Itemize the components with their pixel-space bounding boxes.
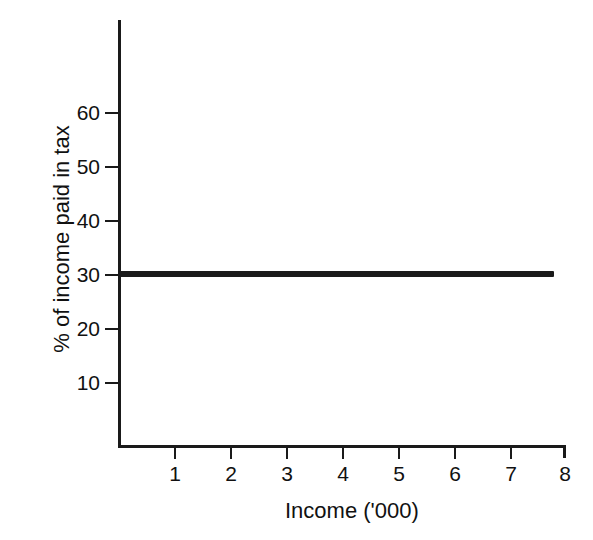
y-tick-mark-10 [105, 382, 119, 384]
x-tick-mark-4 [342, 446, 344, 459]
x-tick-label-2: 2 [211, 462, 251, 485]
y-tick-label-20-wrap: 20 [52, 318, 100, 339]
x-tick-label-3: 3 [267, 462, 307, 485]
data-series-proportional-tax-rate [119, 271, 554, 277]
y-tick-label-10: 10 [56, 372, 100, 393]
y-tick-mark-40 [105, 220, 119, 222]
x-tick-mark-5 [398, 446, 400, 459]
line-chart: % of income paid in tax 60 50 40 30 20 1… [0, 0, 593, 540]
y-tick-label-10-wrap: 10 [52, 372, 100, 393]
x-axis-title: Income ('000) [0, 498, 593, 524]
y-tick-label-50: 50 [56, 156, 100, 177]
y-tick-label-30-wrap: 30 [52, 264, 100, 285]
x-axis-end-cap [563, 445, 566, 458]
x-tick-mark-3 [286, 446, 288, 459]
y-tick-label-60-wrap: 60 [52, 102, 100, 123]
y-axis-title: % of income paid in tax [49, 89, 75, 389]
plot-area [120, 20, 566, 446]
y-tick-mark-60 [105, 112, 119, 114]
x-tick-label-5: 5 [379, 462, 419, 485]
y-tick-label-40-wrap: 40 [52, 210, 100, 231]
x-tick-label-6: 6 [435, 462, 475, 485]
y-tick-mark-20 [105, 328, 119, 330]
y-tick-label-40: 40 [56, 210, 100, 231]
y-tick-label-60: 60 [56, 102, 100, 123]
x-tick-label-8: 8 [545, 462, 585, 485]
y-tick-label-20: 20 [56, 318, 100, 339]
x-tick-label-1: 1 [155, 462, 195, 485]
x-tick-mark-7 [510, 446, 512, 459]
y-tick-label-50-wrap: 50 [52, 156, 100, 177]
y-tick-mark-30 [105, 274, 119, 276]
y-tick-label-30: 30 [56, 264, 100, 285]
x-tick-label-4: 4 [323, 462, 363, 485]
y-tick-mark-50 [105, 166, 119, 168]
x-tick-mark-1 [174, 446, 176, 459]
x-tick-label-7: 7 [491, 462, 531, 485]
x-tick-mark-2 [230, 446, 232, 459]
x-tick-mark-6 [454, 446, 456, 459]
